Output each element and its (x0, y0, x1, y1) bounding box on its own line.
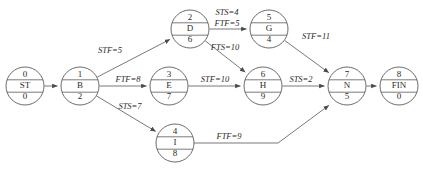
node-duration: 0 (397, 91, 402, 101)
node-index: 6 (261, 69, 266, 79)
node-name: B (77, 80, 83, 90)
node-index: 1 (78, 69, 83, 79)
node-index: 8 (397, 69, 402, 79)
node-duration: 5 (345, 91, 350, 101)
node-index: 3 (167, 69, 172, 79)
node-duration: 0 (23, 91, 28, 101)
node-duration: 7 (167, 91, 172, 101)
edge-label-ftf-9: FTF=9 (215, 131, 242, 141)
edge-labels-layer: STF=5FTF=8STS=7STS=4FTF=5FTS=10STF=10STF… (98, 7, 330, 141)
node-fin[interactable]: 8FIN0 (380, 67, 418, 105)
node-duration: 4 (267, 34, 272, 44)
node-st[interactable]: 0ST0 (6, 67, 44, 105)
node-index: 5 (267, 12, 272, 22)
edge-label-sts-7: STS=7 (118, 101, 142, 111)
edge-label-stf-10: STF=10 (201, 74, 230, 84)
network-diagram-svg: 0ST01B22D63E74I85G46H97N58FIN0 STF=5FTF=… (0, 0, 423, 175)
node-index: 4 (173, 126, 178, 136)
network-diagram-canvas: 0ST01B22D63E74I85G46H97N58FIN0 STF=5FTF=… (0, 0, 423, 175)
edge-n5-to-n7 (285, 41, 329, 73)
edge-label-ftf-5: FTF=5 (213, 18, 239, 28)
node-name: N (344, 80, 351, 90)
edge-label-sts-2: STS=2 (289, 74, 313, 84)
node-name: FIN (392, 80, 407, 90)
edge-label-ftf-8: FTF=8 (114, 74, 141, 84)
node-name: D (187, 23, 194, 33)
node-n[interactable]: 7N5 (328, 67, 366, 105)
node-e[interactable]: 3E7 (150, 67, 188, 105)
node-name: E (166, 80, 172, 90)
node-duration: 6 (188, 34, 193, 44)
edge-label-fts-10: FTS=10 (210, 42, 240, 52)
node-index: 2 (188, 12, 193, 22)
edge-label-stf-5: STF=5 (98, 45, 122, 55)
node-name: I (174, 137, 177, 147)
node-index: 7 (345, 69, 350, 79)
edge-label-stf-11: STF=11 (302, 31, 330, 41)
node-i[interactable]: 4I8 (156, 124, 194, 162)
node-duration: 2 (78, 91, 83, 101)
node-name: H (260, 80, 267, 90)
node-name: ST (20, 80, 31, 90)
node-duration: 9 (261, 91, 266, 101)
node-g[interactable]: 5G4 (250, 10, 288, 48)
node-h[interactable]: 6H9 (244, 67, 282, 105)
edge-n4-to-n7 (194, 105, 329, 143)
edge-label-sts-4: STS=4 (215, 7, 239, 17)
node-d[interactable]: 2D6 (171, 10, 209, 48)
node-duration: 8 (173, 148, 178, 158)
node-name: G (266, 23, 273, 33)
node-b[interactable]: 1B2 (61, 67, 99, 105)
node-index: 0 (23, 69, 28, 79)
